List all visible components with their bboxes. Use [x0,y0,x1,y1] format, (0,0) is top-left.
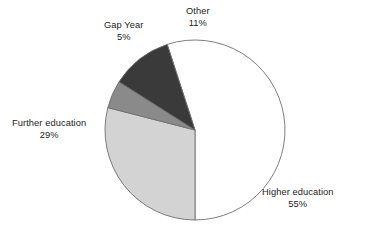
slice-label-further-education: Further education 29% [12,118,86,141]
slice-label-further-education-value: 29% [12,130,86,142]
slice-label-further-education-name: Further education [12,118,86,130]
slice-label-gap-year-value: 5% [104,32,143,44]
pie-slices-group [105,40,285,220]
slice-label-other-name: Other [186,6,210,18]
slice-label-other-value: 11% [186,18,210,30]
slice-label-higher-education-value: 55% [262,199,334,211]
slice-label-other: Other 11% [186,6,210,29]
pie-chart: Other 11% Gap Year 5% Further education … [0,0,368,231]
slice-label-gap-year: Gap Year 5% [104,20,143,43]
slice-label-higher-education: Higher education 55% [262,187,334,210]
slice-label-gap-year-name: Gap Year [104,20,143,32]
slice-label-higher-education-name: Higher education [262,187,334,199]
